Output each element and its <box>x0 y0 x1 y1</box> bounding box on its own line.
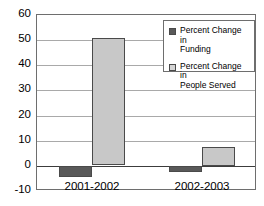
legend-item-people-served: Percent Change in People Served <box>169 62 250 91</box>
legend-label-funding: Percent Change in Funding <box>180 26 250 55</box>
y-tick-label: 30 <box>0 83 31 94</box>
y-tick-label: 0 <box>0 159 31 170</box>
y-tick-label: 40 <box>0 58 31 69</box>
legend-label-people-served: Percent Change in People Served <box>180 62 250 91</box>
legend-label-funding-line2: Funding <box>180 44 211 54</box>
legend-swatch-people-served-icon <box>169 64 176 71</box>
chart-legend: Percent Change in Funding Percent Change… <box>163 20 255 72</box>
y-tick-label: -10 <box>0 184 31 195</box>
legend-label-people-served-line1: Percent Change in <box>180 61 241 81</box>
bar-chart: 2001-20022002-2003 6050403020100-10 Perc… <box>0 0 264 206</box>
legend-item-funding: Percent Change in Funding <box>169 26 250 55</box>
y-tick-label: 10 <box>0 134 31 145</box>
legend-label-funding-line1: Percent Change in <box>180 25 241 45</box>
y-tick-label: 20 <box>0 109 31 120</box>
legend-label-people-served-line2: People Served <box>180 80 236 90</box>
y-tick-label: 60 <box>0 8 31 19</box>
legend-swatch-funding-icon <box>169 28 176 35</box>
y-tick-label: 50 <box>0 33 31 44</box>
